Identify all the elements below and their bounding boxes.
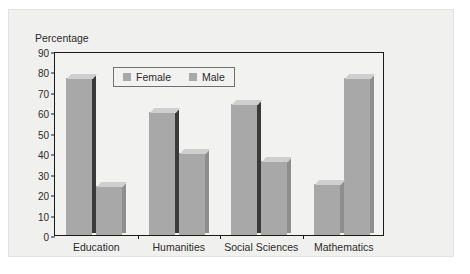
bar-face — [149, 112, 175, 235]
bar-side — [257, 102, 261, 233]
y-tick-mark — [51, 237, 55, 238]
bar-female-social-sciences — [231, 104, 257, 235]
x-tick-mark — [303, 235, 304, 239]
bar-side — [340, 182, 344, 233]
y-tick-mark — [51, 73, 55, 74]
bar-female-mathematics — [314, 184, 340, 235]
bar-side — [175, 110, 179, 233]
legend-item-female: Female — [123, 71, 171, 83]
bar-female-education — [66, 78, 92, 235]
bar-side — [287, 159, 291, 233]
bar-face — [261, 161, 287, 235]
bar-group — [303, 53, 386, 235]
bar-face — [66, 78, 92, 235]
bar-top — [150, 108, 180, 113]
bar-male-social-sciences — [261, 161, 287, 235]
y-tick-mark — [51, 216, 55, 217]
chart-panel: Percentage Female Male 90807060504030201… — [8, 9, 454, 257]
bar-top — [345, 74, 375, 79]
x-tick-mark — [220, 235, 221, 239]
y-axis-title: Percentage — [35, 32, 89, 44]
legend-swatch-male — [189, 73, 197, 81]
bar-top — [232, 100, 262, 105]
y-tick-mark — [51, 175, 55, 176]
bar-chart: Percentage Female Male 90807060504030201… — [9, 10, 453, 256]
bar-side — [92, 76, 96, 233]
bar-face — [179, 153, 205, 235]
bar-side — [122, 184, 126, 233]
bar-top — [97, 182, 127, 187]
bar-side — [205, 151, 209, 233]
chart-legend: Female Male — [113, 67, 235, 87]
bar-top — [180, 149, 210, 154]
bar-face — [344, 78, 370, 235]
bar-side — [370, 76, 374, 233]
bar-male-mathematics — [344, 78, 370, 235]
bar-face — [96, 186, 122, 235]
bar-face — [231, 104, 257, 235]
plot-frame: Female Male 9080706050403020100Education… — [54, 52, 384, 236]
y-tick-mark — [51, 93, 55, 94]
y-tick-mark — [51, 196, 55, 197]
x-tick-label: Social Sciences — [224, 241, 298, 253]
bar-top — [315, 180, 345, 185]
y-tick-mark — [51, 53, 55, 54]
bar-top — [262, 157, 292, 162]
bar-male-humanities — [179, 153, 205, 235]
legend-swatch-female — [123, 73, 131, 81]
y-tick-mark — [51, 134, 55, 135]
x-tick-label: Mathematics — [314, 241, 374, 253]
x-tick-mark — [138, 235, 139, 239]
bar-male-education — [96, 186, 122, 235]
legend-item-male: Male — [189, 71, 225, 83]
y-tick-mark — [51, 155, 55, 156]
x-tick-label: Education — [73, 241, 120, 253]
bar-face — [314, 184, 340, 235]
bar-top — [67, 74, 97, 79]
x-tick-label: Humanities — [152, 241, 205, 253]
legend-label-male: Male — [202, 71, 225, 83]
bar-female-humanities — [149, 112, 175, 235]
y-tick-mark — [51, 114, 55, 115]
legend-label-female: Female — [136, 71, 171, 83]
